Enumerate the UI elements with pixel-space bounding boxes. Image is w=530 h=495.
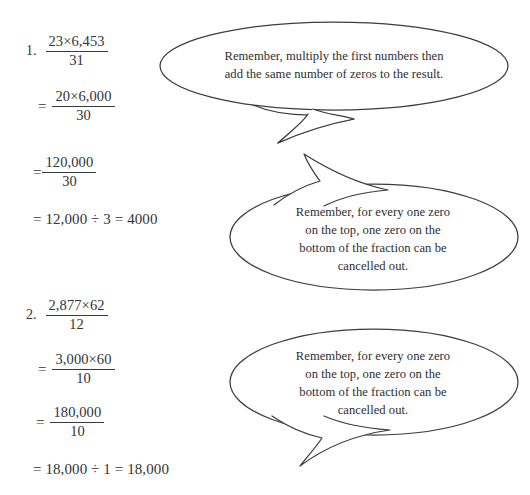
problem-1-step-2: = 20×6,000 30 bbox=[38, 89, 115, 123]
problem-2-step-3: = 180,000 10 bbox=[36, 405, 104, 439]
fraction: 120,000 30 bbox=[42, 155, 96, 189]
problem-1-number: 1. bbox=[26, 44, 37, 58]
fraction: 180,000 10 bbox=[50, 405, 104, 439]
fraction-denominator: 10 bbox=[73, 370, 94, 387]
fraction-numerator: 180,000 bbox=[50, 405, 104, 422]
speech-bubble-text: Remember, for every one zero on the top,… bbox=[228, 348, 518, 420]
speech-bubble-text: Remember, multiply the first numbers the… bbox=[158, 48, 510, 84]
bubble-line: Remember, multiply the first numbers the… bbox=[158, 48, 510, 66]
bubble-line: bottom of the fraction can be bbox=[228, 384, 518, 402]
fraction: 2,877×62 12 bbox=[46, 298, 108, 332]
fraction-denominator: 10 bbox=[67, 423, 88, 440]
speech-bubble-multiply-hint: Remember, multiply the first numbers the… bbox=[158, 20, 510, 140]
fraction: 3,000×60 10 bbox=[52, 352, 114, 386]
problem-1-step-3: = 120,000 30 bbox=[33, 155, 96, 189]
result-expression: = 12,000 ÷ 3 = 4000 bbox=[33, 212, 158, 227]
fraction-numerator: 23×6,453 bbox=[46, 34, 108, 51]
bubble-line: cancelled out. bbox=[228, 258, 518, 276]
problem-2-step-2: = 3,000×60 10 bbox=[38, 352, 115, 386]
fraction-denominator: 31 bbox=[66, 52, 87, 69]
fraction-numerator: 2,877×62 bbox=[46, 298, 108, 315]
fraction-numerator: 3,000×60 bbox=[52, 352, 114, 369]
worksheet-page: 1. 23×6,453 31 = 20×6,000 30 = 120,000 3… bbox=[0, 0, 530, 495]
speech-bubble-text: Remember, for every one zero on the top,… bbox=[228, 204, 518, 276]
fraction-denominator: 30 bbox=[59, 173, 80, 190]
speech-bubble-cancel-zeros-2: Remember, for every one zero on the top,… bbox=[228, 326, 518, 476]
bubble-line: Remember, for every one zero bbox=[228, 204, 518, 222]
problem-2-number: 2. bbox=[26, 308, 37, 322]
fraction: 20×6,000 30 bbox=[52, 89, 114, 123]
bubble-line: on the top, one zero on the bbox=[228, 222, 518, 240]
result-expression: = 18,000 ÷ 1 = 18,000 bbox=[33, 462, 169, 477]
bubble-line: cancelled out. bbox=[228, 402, 518, 420]
fraction: 23×6,453 31 bbox=[46, 34, 108, 68]
bubble-line: on the top, one zero on the bbox=[228, 366, 518, 384]
bubble-line: bottom of the fraction can be bbox=[228, 240, 518, 258]
problem-1-step-1: 1. 23×6,453 31 bbox=[26, 34, 108, 68]
equals-sign: = bbox=[38, 362, 46, 377]
bubble-line: Remember, for every one zero bbox=[228, 348, 518, 366]
bubble-line: add the same number of zeros to the resu… bbox=[158, 66, 510, 84]
equals-sign: = bbox=[33, 165, 41, 180]
problem-1-step-4: = 12,000 ÷ 3 = 4000 bbox=[33, 212, 158, 227]
fraction-numerator: 120,000 bbox=[42, 155, 96, 172]
fraction-denominator: 12 bbox=[66, 316, 87, 333]
problem-2-step-4: = 18,000 ÷ 1 = 18,000 bbox=[33, 462, 169, 477]
equals-sign: = bbox=[38, 99, 46, 114]
fraction-numerator: 20×6,000 bbox=[52, 89, 114, 106]
fraction-denominator: 30 bbox=[73, 107, 94, 124]
speech-bubble-cancel-zeros-1: Remember, for every one zero on the top,… bbox=[228, 150, 518, 295]
equals-sign: = bbox=[36, 415, 44, 430]
problem-2-step-1: 2. 2,877×62 12 bbox=[26, 298, 108, 332]
